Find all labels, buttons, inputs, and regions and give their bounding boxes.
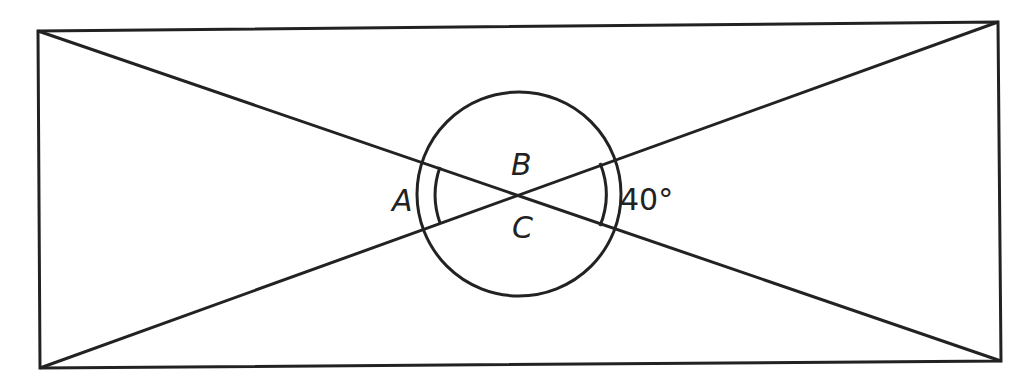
- label-angle-b: B: [511, 147, 532, 182]
- angle-arc-a: [435, 167, 440, 223]
- diagonal-bottom-left-to-top-right: [40, 22, 998, 368]
- geometry-diagram: A B C 40°: [0, 0, 1035, 386]
- angle-arc-40: [600, 163, 606, 226]
- label-angle-40: 40°: [620, 182, 673, 217]
- label-angle-c: C: [512, 210, 533, 245]
- label-angle-a: A: [390, 183, 413, 218]
